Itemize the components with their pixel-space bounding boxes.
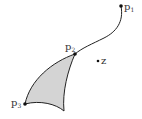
label-p3: p3 [11, 97, 21, 109]
shaded-region [25, 54, 75, 111]
point-p3 [23, 102, 27, 106]
diagram-canvas: p1 p2 p3 z [0, 0, 142, 119]
point-p1 [119, 4, 123, 8]
curve-p1-p2 [75, 6, 122, 54]
label-p2: p2 [65, 41, 75, 53]
label-z: z [101, 55, 106, 66]
point-z [97, 60, 100, 63]
label-p1: p1 [124, 1, 134, 13]
